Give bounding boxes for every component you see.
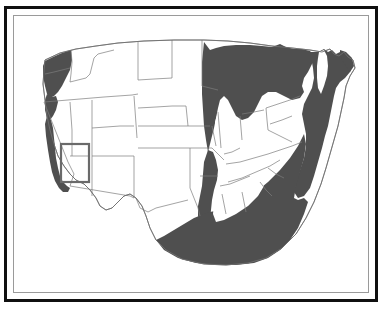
us-range-map [14, 16, 368, 292]
map-canvas [14, 16, 368, 292]
figure-panel [0, 0, 388, 315]
